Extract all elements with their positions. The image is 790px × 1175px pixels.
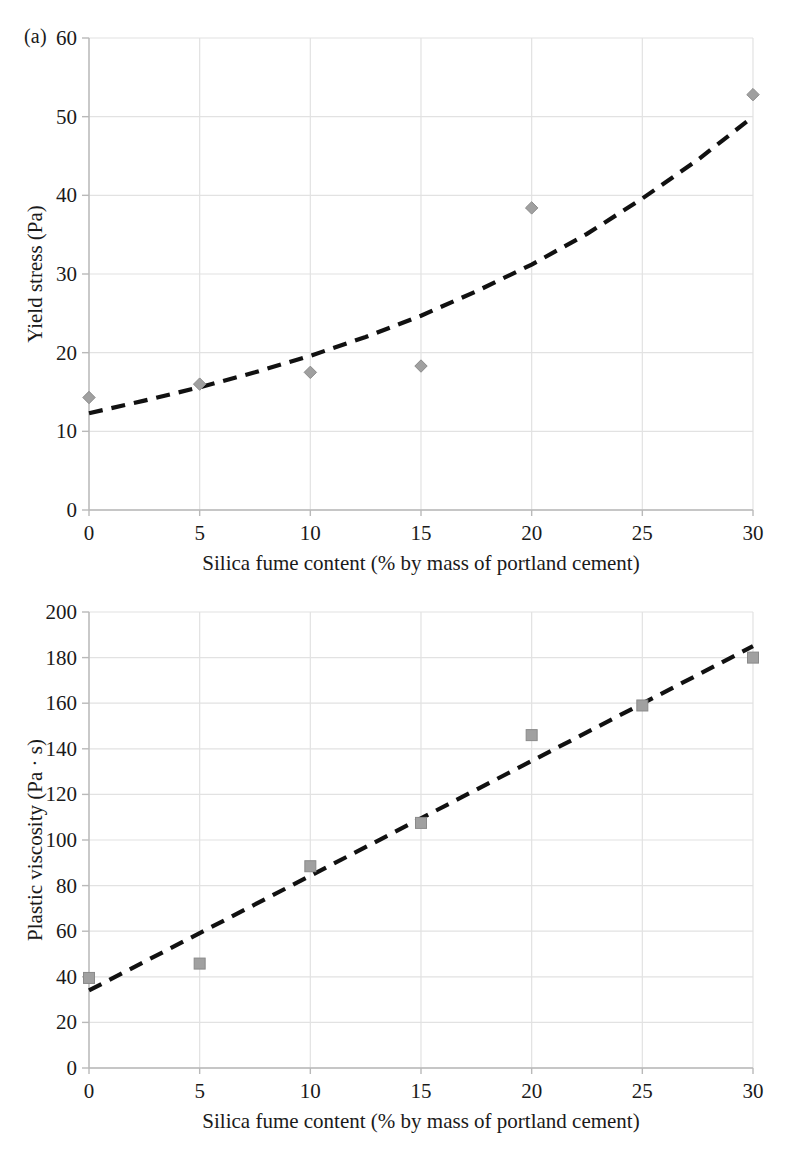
data-point-diamond bbox=[304, 366, 316, 378]
y-tick-label: 100 bbox=[46, 828, 78, 852]
x-tick-label: 25 bbox=[632, 1079, 653, 1103]
data-point-diamond bbox=[193, 378, 205, 390]
x-tick-label: 10 bbox=[300, 1079, 321, 1103]
y-tick-label: 50 bbox=[56, 105, 77, 129]
y-tick-label: 200 bbox=[46, 600, 78, 624]
y-axis-ticks: 0102030405060 bbox=[56, 26, 89, 522]
y-tick-label: 20 bbox=[56, 1010, 77, 1034]
x-axis-ticks: 051015202530 bbox=[84, 510, 764, 545]
y-tick-label: 30 bbox=[56, 262, 77, 286]
y-tick-label: 60 bbox=[56, 26, 77, 50]
x-axis-ticks: 051015202530 bbox=[84, 1068, 764, 1103]
x-tick-label: 0 bbox=[84, 1079, 95, 1103]
yield-stress-plot: 0102030405060051015202530Yield stress (P… bbox=[0, 0, 790, 580]
y-tick-label: 60 bbox=[56, 919, 77, 943]
data-point-diamond bbox=[525, 202, 537, 214]
y-tick-label: 160 bbox=[46, 691, 78, 715]
chart-panel-b: (b) 020406080100120140160180200051015202… bbox=[0, 580, 790, 1175]
y-axis-title: Plastic viscosity (Pa · s) bbox=[23, 739, 47, 941]
data-point-square bbox=[637, 700, 648, 711]
data-point-square bbox=[748, 652, 759, 663]
data-point-square bbox=[194, 958, 205, 969]
plastic-viscosity-plot: 020406080100120140160180200051015202530P… bbox=[0, 580, 790, 1175]
x-tick-label: 5 bbox=[194, 521, 205, 545]
x-tick-label: 15 bbox=[411, 1079, 432, 1103]
data-point-square bbox=[84, 972, 95, 983]
gridlines bbox=[89, 612, 753, 1068]
data-point-diamond bbox=[83, 391, 95, 403]
x-tick-label: 10 bbox=[300, 521, 321, 545]
data-point-diamond bbox=[747, 88, 759, 100]
x-tick-label: 25 bbox=[632, 521, 653, 545]
y-tick-label: 0 bbox=[67, 498, 78, 522]
x-tick-label: 20 bbox=[521, 521, 542, 545]
y-tick-label: 40 bbox=[56, 183, 77, 207]
gridlines bbox=[89, 38, 753, 510]
y-tick-label: 180 bbox=[46, 646, 78, 670]
y-tick-label: 0 bbox=[67, 1056, 78, 1080]
y-tick-label: 20 bbox=[56, 341, 77, 365]
y-tick-label: 120 bbox=[46, 782, 78, 806]
x-tick-label: 30 bbox=[743, 1079, 764, 1103]
data-point-square bbox=[526, 730, 537, 741]
data-point-square bbox=[305, 861, 316, 872]
y-tick-label: 40 bbox=[56, 965, 77, 989]
y-tick-label: 140 bbox=[46, 737, 78, 761]
y-axis-title: Yield stress (Pa) bbox=[23, 205, 47, 343]
data-point-square bbox=[416, 817, 427, 828]
x-tick-label: 15 bbox=[411, 521, 432, 545]
y-tick-label: 80 bbox=[56, 874, 77, 898]
x-tick-label: 20 bbox=[521, 1079, 542, 1103]
data-point-diamond bbox=[415, 360, 427, 372]
x-tick-label: 5 bbox=[194, 1079, 205, 1103]
x-tick-label: 30 bbox=[743, 521, 764, 545]
x-tick-label: 0 bbox=[84, 521, 95, 545]
y-axis-ticks: 020406080100120140160180200 bbox=[46, 600, 90, 1080]
chart-panel-a: (a) 0102030405060051015202530Yield stres… bbox=[0, 0, 790, 580]
x-axis-title: Silica fume content (% by mass of portla… bbox=[202, 551, 639, 575]
x-axis-title: Silica fume content (% by mass of portla… bbox=[202, 1109, 639, 1133]
y-tick-label: 10 bbox=[56, 419, 77, 443]
